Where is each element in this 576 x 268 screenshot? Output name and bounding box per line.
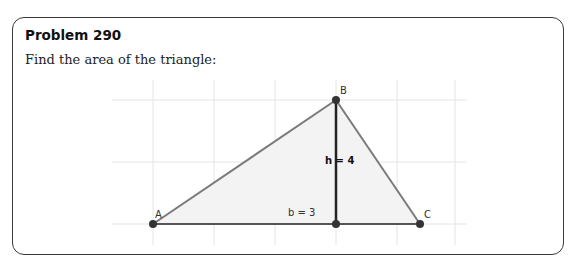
point-b bbox=[332, 96, 340, 104]
point-foot bbox=[332, 220, 340, 228]
height-label: h = 4 bbox=[325, 155, 354, 166]
point-a bbox=[149, 220, 157, 228]
point-c bbox=[416, 220, 424, 228]
triangle-figure: A B C h = 4 b = 3 bbox=[0, 0, 576, 268]
label-c: C bbox=[424, 209, 431, 220]
label-b: B bbox=[340, 85, 347, 96]
base-label: b = 3 bbox=[288, 207, 315, 218]
label-a: A bbox=[155, 209, 162, 220]
